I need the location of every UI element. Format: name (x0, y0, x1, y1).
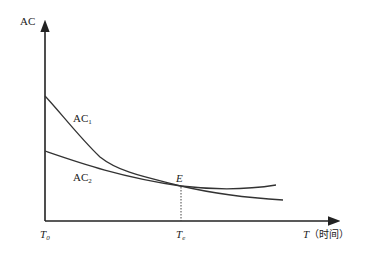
x-axis-label: T（时间） (303, 229, 349, 240)
ac2-label: AC2 (73, 172, 92, 185)
x-tick-t0: T0 (40, 229, 50, 242)
intersection-e-label: E (176, 173, 183, 184)
ac1-label: AC1 (73, 113, 92, 126)
y-axis-label: AC (20, 16, 35, 27)
x-tick-te: Te (176, 229, 185, 242)
chart-canvas (0, 0, 366, 256)
